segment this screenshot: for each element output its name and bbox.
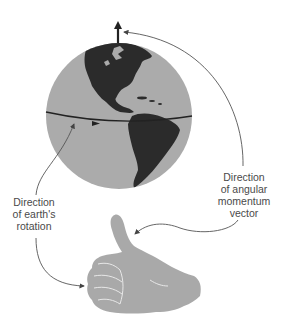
- label-text: of earth's: [4, 208, 64, 220]
- label-angular-momentum: Direction of angular momentum vector: [212, 171, 276, 219]
- connector-angular-to-thumb: [135, 220, 238, 234]
- label-text: of angular: [212, 183, 276, 195]
- label-earth-rotation: Direction of earth's rotation: [4, 196, 64, 232]
- label-text: Direction: [4, 196, 64, 208]
- globe: [46, 41, 192, 189]
- label-text: rotation: [4, 220, 64, 232]
- arrow-up-icon: [114, 21, 122, 29]
- right-hand-rule-figure: Direction of earth's rotation Direction …: [0, 0, 281, 328]
- diagram-artwork: [0, 0, 281, 328]
- label-text: vector: [212, 207, 276, 219]
- label-text: momentum: [212, 195, 276, 207]
- angular-momentum-arrow: [114, 21, 122, 43]
- label-text: Direction: [212, 171, 276, 183]
- connector-rotation-to-fingers: [36, 238, 84, 286]
